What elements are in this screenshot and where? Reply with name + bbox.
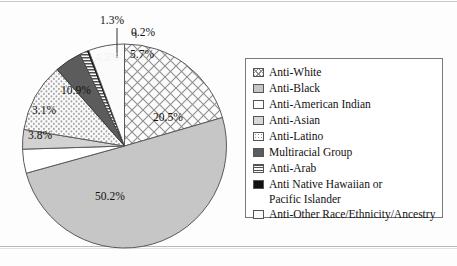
legend-item[interactable]: Anti-Other Race/Ethnicity/Ancestry <box>253 207 436 222</box>
chart-legend: Anti-WhiteAnti-BlackAnti-American Indian… <box>245 58 443 218</box>
legend-rows: Anti-WhiteAnti-BlackAnti-American Indian… <box>253 65 436 222</box>
legend-swatch-icon <box>253 100 264 109</box>
legend-item-label: Anti-Asian <box>269 113 320 128</box>
legend-swatch-icon <box>253 164 264 173</box>
pie-slice-label: 50.2% <box>95 190 125 202</box>
pie-chart: 20.5%50.2%3.8%3.1%10.9%4.3%1.3%0.2%5.7% <box>0 0 240 250</box>
legend-item-label: Anti-Arab <box>269 161 316 176</box>
pie-slices-group <box>23 44 227 248</box>
legend-item[interactable]: Multiracial Group <box>253 145 436 160</box>
pie-slice-label: 3.1% <box>32 104 56 116</box>
legend-item[interactable]: Anti-Asian <box>253 113 436 128</box>
legend-swatch-icon <box>253 84 264 93</box>
pie-chart-svg <box>0 0 240 250</box>
legend-swatch-icon <box>253 148 264 157</box>
legend-item-label: Anti-Black <box>269 81 320 96</box>
legend-swatch-icon <box>253 68 264 77</box>
pie-slice-label: 0.2% <box>131 26 155 38</box>
pie-slice-label: 10.9% <box>61 84 91 96</box>
legend-swatch-icon <box>253 210 264 219</box>
legend-item[interactable]: Anti-White <box>253 65 436 80</box>
legend-item-label: Anti-Other Race/Ethnicity/Ancestry <box>269 207 435 222</box>
pie-slice-label: 4.3% <box>95 51 119 63</box>
pie-slice-label: 3.8% <box>28 129 52 141</box>
legend-item[interactable]: Anti-American Indian <box>253 97 436 112</box>
legend-item[interactable]: Anti-Arab <box>253 161 436 176</box>
pie-slice-label: 5.7% <box>130 48 154 60</box>
legend-item[interactable]: Anti-Black <box>253 81 436 96</box>
pie-slice-label: 1.3% <box>100 14 124 26</box>
pie-slice-label: 20.5% <box>153 111 183 123</box>
legend-item[interactable]: Anti Native Hawaiian orPacific Islander <box>253 177 436 206</box>
legend-item-label: Multiracial Group <box>269 145 352 160</box>
legend-item-label: Anti-American Indian <box>269 97 371 112</box>
legend-item-label: Anti-White <box>269 65 321 80</box>
legend-swatch-icon <box>253 180 264 189</box>
figure-container: 20.5%50.2%3.8%3.1%10.9%4.3%1.3%0.2%5.7% … <box>0 0 457 266</box>
legend-swatch-icon <box>253 116 264 125</box>
legend-item-label-line2: Pacific Islander <box>269 192 382 207</box>
legend-item-label: Anti Native Hawaiian orPacific Islander <box>269 177 382 206</box>
legend-item-label: Anti-Latino <box>269 129 323 144</box>
legend-swatch-icon <box>253 132 264 141</box>
legend-item[interactable]: Anti-Latino <box>253 129 436 144</box>
